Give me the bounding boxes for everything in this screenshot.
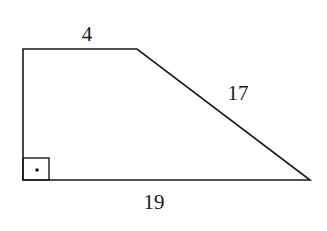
label-slant-side: 17 xyxy=(228,81,249,105)
right-angle-dot xyxy=(35,168,39,172)
label-top-side: 4 xyxy=(82,22,93,46)
label-bottom-side: 19 xyxy=(144,190,165,214)
trapezoid-diagram: 4 17 19 xyxy=(0,0,327,231)
trapezoid-outline xyxy=(23,49,310,180)
